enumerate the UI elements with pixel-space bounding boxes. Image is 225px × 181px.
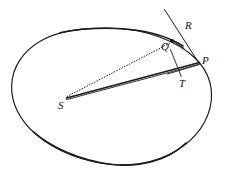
point-label-p: P	[202, 55, 209, 66]
point-label-s: S	[58, 100, 64, 111]
tangent-line-at-p	[165, 10, 200, 65]
point-label-r: R	[185, 20, 192, 31]
point-marker-q	[170, 39, 174, 43]
point-label-q: Q	[161, 41, 169, 52]
figure-root: R Q P T S	[0, 0, 225, 181]
point-label-t: T	[179, 78, 185, 89]
orbit-ellipse	[12, 28, 212, 165]
segment-s-to-q	[67, 43, 171, 97]
